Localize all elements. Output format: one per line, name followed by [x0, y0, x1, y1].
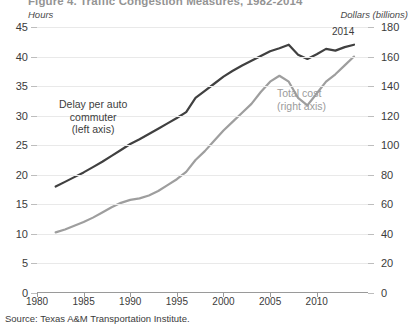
x-axis-tick	[317, 293, 318, 297]
delay-series-annotation: Delay per auto commuter (left axis)	[59, 98, 127, 136]
left-axis-tick-label: 35	[16, 80, 28, 92]
left-axis-unit-label: Hours	[28, 9, 53, 20]
x-axis-tick-label: 1995	[166, 296, 188, 307]
gridline	[37, 145, 368, 146]
left-axis-tick	[31, 27, 37, 28]
left-axis-tick	[31, 204, 37, 205]
chart-title: Figure 4. Traffic Congestion Measures, 1…	[28, 0, 303, 7]
chart-figure: Figure 4. Traffic Congestion Measures, 1…	[0, 0, 412, 329]
x-axis-tick-label: 2010	[306, 296, 328, 307]
left-axis-tick	[31, 57, 37, 58]
right-axis-tick	[368, 116, 374, 117]
left-axis-tick-label: 30	[16, 110, 28, 122]
left-axis-tick	[31, 116, 37, 117]
right-axis-tick-label: 160	[381, 51, 399, 63]
right-axis-tick	[368, 86, 374, 87]
left-axis-tick	[31, 86, 37, 87]
right-axis-unit-label: Dollars (billions)	[340, 9, 408, 20]
right-axis-tick-label: 0	[381, 287, 387, 299]
right-axis-tick-label: 180	[381, 21, 399, 33]
left-axis-tick-label: 40	[16, 51, 28, 63]
left-axis-tick-label: 20	[16, 169, 28, 181]
left-axis-tick	[31, 234, 37, 235]
x-axis-tick	[130, 293, 131, 297]
left-axis-tick-label: 45	[16, 21, 28, 33]
gridline	[37, 263, 368, 264]
gridline	[37, 175, 368, 176]
x-axis-tick	[37, 293, 38, 297]
left-axis-tick-label: 15	[16, 198, 28, 210]
x-axis-tick	[177, 293, 178, 297]
x-axis-tick-label: 1980	[26, 296, 48, 307]
right-axis-tick	[368, 293, 374, 294]
right-axis-tick-label: 60	[381, 198, 393, 210]
x-axis-tick	[270, 293, 271, 297]
right-axis-tick	[368, 27, 374, 28]
left-axis-tick	[31, 145, 37, 146]
plot-area: 454035302520151050 180160140120100806040…	[37, 27, 368, 293]
left-axis-tick	[31, 175, 37, 176]
left-axis-tick-label: 25	[16, 139, 28, 151]
cost-series-annotation: Total cost (right axis)	[277, 87, 326, 112]
series-lines	[37, 27, 368, 293]
gridline	[37, 234, 368, 235]
right-axis-tick	[368, 175, 374, 176]
right-axis-tick-label: 120	[381, 110, 399, 122]
right-axis-tick-label: 40	[381, 228, 393, 240]
x-axis-tick	[223, 293, 224, 297]
x-axis-tick-label: 2000	[212, 296, 234, 307]
right-axis-tick-label: 20	[381, 257, 393, 269]
right-axis-tick-label: 80	[381, 169, 393, 181]
left-axis-tick-label: 5	[22, 257, 28, 269]
right-axis-tick	[368, 234, 374, 235]
gridline	[37, 57, 368, 58]
x-axis-tick-label: 2005	[259, 296, 281, 307]
gridline	[37, 204, 368, 205]
end-year-annotation: 2014	[332, 26, 354, 37]
right-axis-tick	[368, 263, 374, 264]
x-axis-line	[37, 292, 368, 293]
right-axis-tick-label: 140	[381, 80, 399, 92]
x-axis-tick-label: 1985	[72, 296, 94, 307]
left-axis-tick-label: 10	[16, 228, 28, 240]
right-axis-tick	[368, 57, 374, 58]
right-axis-tick-label: 100	[381, 139, 399, 151]
right-axis-tick	[368, 145, 374, 146]
left-axis-tick	[31, 263, 37, 264]
source-note: Source: Texas A&M Transportation Institu…	[5, 313, 190, 324]
x-axis-tick	[84, 293, 85, 297]
gridline	[37, 27, 368, 28]
x-axis-tick-label: 1990	[119, 296, 141, 307]
right-axis-tick	[368, 204, 374, 205]
